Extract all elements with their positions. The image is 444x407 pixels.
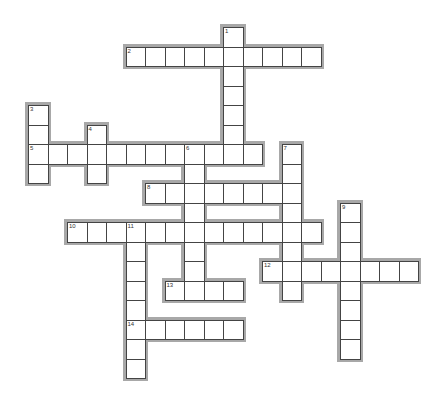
grid-cell[interactable] <box>223 47 244 68</box>
grid-cell[interactable]: 9 <box>340 203 361 224</box>
grid-cell[interactable] <box>262 183 283 204</box>
grid-cell[interactable] <box>243 222 264 243</box>
grid-cell[interactable] <box>165 47 186 68</box>
grid-cell[interactable] <box>223 125 244 146</box>
grid-cell[interactable]: 3 <box>28 105 49 126</box>
grid-cell[interactable] <box>282 164 303 185</box>
grid-cell[interactable] <box>340 261 361 282</box>
grid-cell[interactable] <box>399 261 420 282</box>
grid-cell[interactable]: 8 <box>145 183 166 204</box>
grid-cell[interactable] <box>145 320 166 341</box>
grid-cell[interactable] <box>184 242 205 263</box>
grid-cell[interactable] <box>204 281 225 302</box>
grid-cell[interactable] <box>87 144 108 165</box>
grid-cell[interactable] <box>321 261 342 282</box>
grid-cell[interactable] <box>379 261 400 282</box>
grid-cell[interactable] <box>126 242 147 263</box>
clue-number: 11 <box>128 223 134 229</box>
grid-cell[interactable] <box>145 144 166 165</box>
grid-cell[interactable]: 2 <box>126 47 147 68</box>
grid-cell[interactable] <box>223 320 244 341</box>
grid-cell[interactable] <box>282 242 303 263</box>
grid-cell[interactable] <box>340 339 361 360</box>
grid-cell[interactable] <box>145 222 166 243</box>
grid-cell[interactable] <box>223 144 244 165</box>
grid-cell[interactable] <box>184 320 205 341</box>
grid-cell[interactable] <box>223 281 244 302</box>
grid-cell[interactable] <box>282 47 303 68</box>
grid-cell[interactable] <box>340 320 361 341</box>
grid-cell[interactable]: 5 <box>28 144 49 165</box>
grid-cell[interactable]: 4 <box>87 125 108 146</box>
grid-cell[interactable] <box>184 261 205 282</box>
grid-cell[interactable] <box>360 261 381 282</box>
clue-number: 12 <box>264 262 271 268</box>
grid-cell[interactable] <box>340 222 361 243</box>
grid-cell[interactable] <box>204 47 225 68</box>
grid-cell[interactable] <box>67 144 88 165</box>
grid-cell[interactable] <box>126 261 147 282</box>
grid-cell[interactable] <box>184 222 205 243</box>
grid-cell[interactable] <box>282 203 303 224</box>
grid-cell[interactable]: 11 <box>126 222 147 243</box>
grid-cell[interactable] <box>106 144 127 165</box>
grid-cell[interactable] <box>282 281 303 302</box>
grid-cell[interactable] <box>204 144 225 165</box>
grid-cell[interactable] <box>223 183 244 204</box>
grid-cell[interactable] <box>243 47 264 68</box>
grid-cell[interactable]: 1 <box>223 27 244 48</box>
grid-cell[interactable]: 12 <box>262 261 283 282</box>
grid-cell[interactable] <box>223 222 244 243</box>
grid-cell[interactable] <box>184 183 205 204</box>
grid-cell[interactable] <box>165 144 186 165</box>
grid-cell[interactable] <box>28 125 49 146</box>
grid-cell[interactable] <box>262 47 283 68</box>
grid-cell[interactable] <box>87 164 108 185</box>
grid-cell[interactable] <box>126 300 147 321</box>
grid-cell[interactable] <box>301 47 322 68</box>
grid-cell[interactable] <box>340 300 361 321</box>
grid-cell[interactable]: 10 <box>67 222 88 243</box>
clue-number: 1 <box>225 28 228 34</box>
grid-cell[interactable] <box>165 320 186 341</box>
grid-cell[interactable] <box>282 261 303 282</box>
grid-cell[interactable] <box>340 242 361 263</box>
crossword-grid: 1235467891011141213 <box>0 0 444 407</box>
grid-cell[interactable] <box>126 359 147 380</box>
grid-cell[interactable] <box>243 183 264 204</box>
grid-cell[interactable]: 6 <box>184 144 205 165</box>
grid-cell[interactable] <box>282 222 303 243</box>
grid-cell[interactable] <box>340 281 361 302</box>
grid-cell[interactable]: 14 <box>126 320 147 341</box>
grid-cell[interactable] <box>165 222 186 243</box>
grid-cell[interactable] <box>184 281 205 302</box>
grid-cell[interactable] <box>184 47 205 68</box>
grid-cell[interactable] <box>145 47 166 68</box>
grid-cell[interactable] <box>282 183 303 204</box>
grid-cell[interactable] <box>223 66 244 87</box>
grid-cell[interactable] <box>184 203 205 224</box>
clue-number: 4 <box>89 126 92 132</box>
grid-cell[interactable]: 13 <box>165 281 186 302</box>
grid-cell[interactable] <box>28 164 49 185</box>
grid-cell[interactable] <box>126 281 147 302</box>
grid-cell[interactable] <box>223 86 244 107</box>
grid-cell[interactable] <box>87 222 108 243</box>
clue-number: 5 <box>30 145 33 151</box>
grid-cell[interactable] <box>204 320 225 341</box>
clue-number: 9 <box>342 204 345 210</box>
grid-cell[interactable] <box>262 222 283 243</box>
grid-cell[interactable] <box>204 222 225 243</box>
grid-cell[interactable] <box>301 222 322 243</box>
grid-cell[interactable] <box>301 261 322 282</box>
grid-cell[interactable] <box>243 144 264 165</box>
grid-cell[interactable] <box>48 144 69 165</box>
grid-cell[interactable] <box>204 183 225 204</box>
grid-cell[interactable] <box>223 105 244 126</box>
grid-cell[interactable] <box>126 339 147 360</box>
grid-cell[interactable] <box>126 144 147 165</box>
grid-cell[interactable] <box>165 183 186 204</box>
grid-cell[interactable]: 7 <box>282 144 303 165</box>
grid-cell[interactable] <box>184 164 205 185</box>
grid-cell[interactable] <box>106 222 127 243</box>
